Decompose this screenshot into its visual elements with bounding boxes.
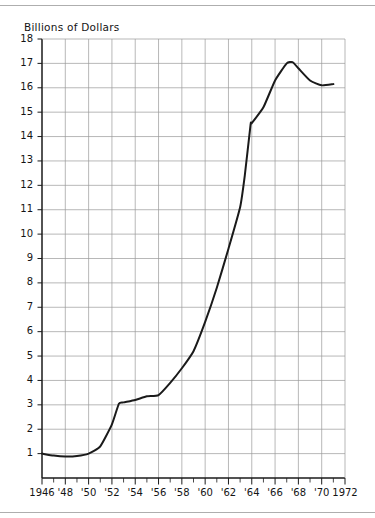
y-tick-label: 2 [11, 423, 33, 434]
y-tick-label: 3 [11, 398, 33, 409]
y-tick-label: 17 [11, 57, 33, 68]
y-tick-label: 9 [11, 252, 33, 263]
chart-figure: Billions of Dollars 12345678910111213141… [0, 0, 375, 518]
y-tick-label: 12 [11, 179, 33, 190]
y-tick-label: 1 [11, 447, 33, 458]
y-tick-label: 5 [11, 350, 33, 361]
axis-ticks [38, 39, 346, 485]
y-tick-label: 18 [11, 33, 33, 44]
x-tick-label: 1972 [330, 487, 360, 498]
gridlines [42, 39, 345, 478]
y-tick-label: 14 [11, 130, 33, 141]
data-series-line [42, 62, 333, 457]
series-path-0 [42, 62, 333, 457]
y-tick-label: 4 [11, 374, 33, 385]
y-tick-label: 16 [11, 81, 33, 92]
y-tick-label: 8 [11, 276, 33, 287]
y-tick-label: 10 [11, 228, 33, 239]
y-tick-label: 11 [11, 203, 33, 214]
y-tick-label: 15 [11, 106, 33, 117]
y-tick-label: 6 [11, 325, 33, 336]
y-tick-label: 7 [11, 301, 33, 312]
chart-plot-area [0, 0, 375, 518]
y-tick-label: 13 [11, 154, 33, 165]
